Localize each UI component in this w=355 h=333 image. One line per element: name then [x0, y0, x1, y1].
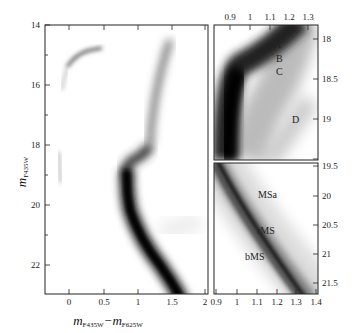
- ur-x-tick: 1.2: [283, 12, 294, 22]
- label-a: A: [274, 39, 282, 50]
- upper-right-panel: 0.9 1 1.1 1.2 1.3 18 18.5 19 A B C D: [214, 12, 338, 160]
- lr-x-tick: 0.9: [210, 297, 222, 307]
- lr-x-tick: 1.3: [290, 297, 302, 307]
- ur-x-tick: 1: [248, 12, 253, 22]
- horizontal-branch: [67, 48, 102, 67]
- lr-y-tick: 20.5: [322, 220, 338, 230]
- main-x-tick: 0.5: [98, 297, 110, 307]
- lr-x-tick: 1.4: [310, 297, 322, 307]
- lr-x-tick: 1.1: [251, 297, 262, 307]
- lr-y-tick: 21.5: [322, 278, 338, 288]
- lr-y-tick: 19.5: [322, 161, 338, 171]
- main-x-tick: 0: [67, 297, 72, 307]
- main-panel: 0 0.5 1 1.5 2 14 16 18 20 22 mF435W−mF62…: [14, 20, 208, 329]
- main-y-tick: 20: [31, 200, 41, 210]
- main-x-tick: 1.5: [166, 297, 178, 307]
- x-axis-label: mF435W−mF625W: [73, 313, 143, 329]
- label-msa: MSa: [258, 189, 277, 200]
- label-bms: bMS: [245, 251, 264, 262]
- red-giant-branch: [150, 40, 170, 145]
- cmd-figure: 0 0.5 1 1.5 2 14 16 18 20 22 mF435W−mF62…: [0, 0, 355, 333]
- main-x-tick: 1: [136, 297, 141, 307]
- ur-x-tick: 0.9: [224, 12, 236, 22]
- lr-x-tick: 1.2: [271, 297, 282, 307]
- main-y-tick: 22: [31, 260, 40, 270]
- blue-sequence: [59, 152, 61, 183]
- ur-x-tick: 1.1: [264, 12, 275, 22]
- ur-x-tick: 1.3: [302, 12, 314, 22]
- main-x-tick: 2: [203, 297, 208, 307]
- ur-y-tick: 19: [322, 114, 332, 124]
- horizontal-branch-tail: [62, 68, 67, 90]
- main-y-tick: 14: [31, 20, 41, 30]
- label-c: C: [276, 66, 283, 77]
- lower-right-panel: 0.9 1 1.1 1.2 1.3 1.4 19.5 20 20.5 21 21…: [210, 160, 338, 307]
- label-d: D: [292, 114, 299, 125]
- label-rms: rMS: [257, 225, 275, 236]
- lr-y-tick: 21: [322, 249, 331, 259]
- main-y-tick: 18: [31, 140, 41, 150]
- lr-y-tick: 20: [322, 191, 332, 201]
- main-y-tick: 16: [31, 80, 41, 90]
- lr-x-tick: 1: [235, 297, 240, 307]
- ur-y-tick: 18.5: [322, 74, 338, 84]
- label-b: B: [276, 53, 283, 64]
- ur-y-tick: 18: [322, 34, 332, 44]
- main-plot-area: [59, 40, 200, 300]
- y-axis-label: mF435W: [14, 156, 30, 187]
